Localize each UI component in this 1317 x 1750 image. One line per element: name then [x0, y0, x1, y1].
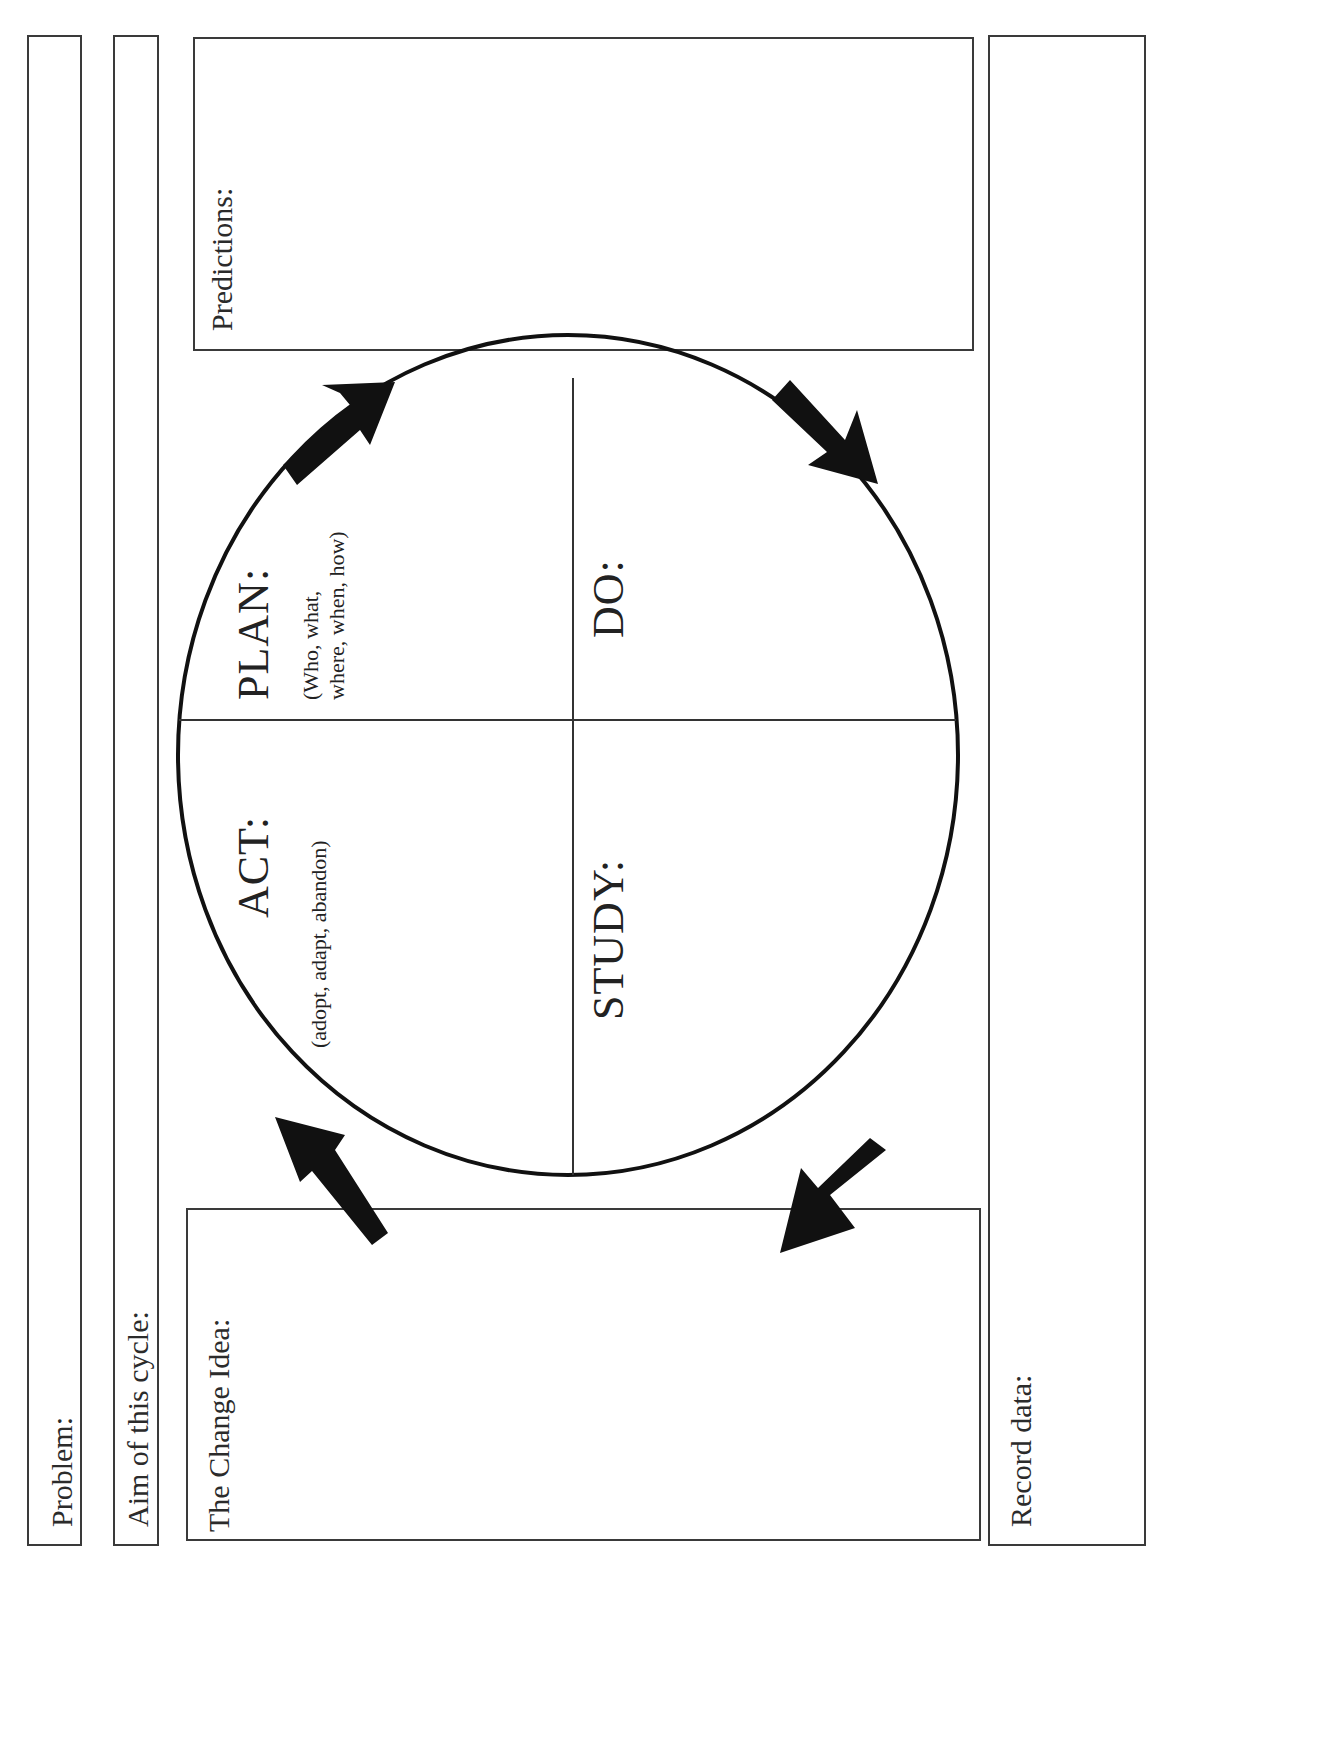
arrow-study-to-act-icon: [275, 1117, 388, 1245]
arrow-act-to-plan-icon: [283, 382, 395, 485]
act-title: ACT:: [228, 816, 279, 918]
act-hint: (adopt, adapt, abandon): [306, 840, 332, 1048]
study-title: STUDY:: [583, 859, 634, 1020]
plan-hint-line2: where, when, how): [324, 531, 350, 700]
plan-title: PLAN:: [228, 568, 279, 700]
arrow-do-to-study-icon: [780, 1138, 886, 1253]
plan-hint-line1: (Who, what,: [298, 591, 324, 700]
do-title: DO:: [583, 559, 634, 638]
arrow-plan-to-do-icon: [772, 380, 878, 484]
pdsa-cycle-diagram: [0, 0, 1317, 1750]
